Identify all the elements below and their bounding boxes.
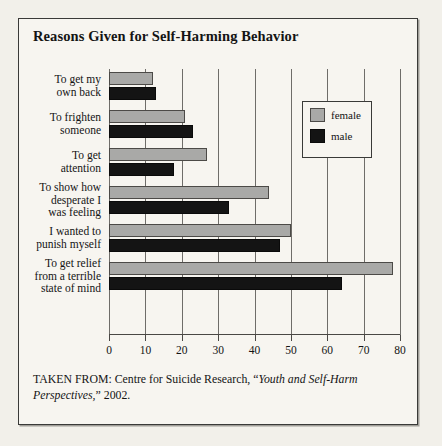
tick-label-0: 0 [106,344,112,356]
bar-female [109,186,269,199]
tick-70 [364,335,365,341]
source-caption: TAKEN FROM: Centre for Suicide Research,… [33,372,401,403]
category-label: To frightensomeone [0,111,101,136]
figure-frame: Reasons Given for Self-Harming Behavior … [18,18,418,425]
page-background: Reasons Given for Self-Harming Behavior … [0,0,442,446]
bar-male [109,239,280,252]
bar-group: I wanted topunish myself [109,224,400,252]
legend-entry-male: male [310,129,371,143]
bar-female [109,148,207,161]
tick-60 [327,335,328,341]
caption-suffix: ” 2002. [96,388,131,402]
category-label: I wanted topunish myself [0,225,101,250]
tick-label-50: 50 [285,344,297,356]
bar-male [109,201,229,214]
tick-label-80: 80 [394,344,406,356]
legend: female male [302,101,372,158]
plot-area: To get myown backTo frightensomeoneTo ge… [19,19,419,426]
caption-prefix: TAKEN FROM: Centre for Suicide Research,… [33,372,258,386]
bar-female [109,262,393,275]
bar-group: To get relieffrom a terriblestate of min… [109,262,400,290]
tick-50 [291,335,292,341]
category-label: To getattention [0,149,101,174]
bar-male [109,125,193,138]
category-label: To get myown back [0,73,101,98]
tick-40 [255,335,256,341]
legend-label-male: male [331,130,352,142]
tick-20 [182,335,183,341]
bar-female [109,224,291,237]
bar-group: To get myown back [109,72,400,100]
tick-label-40: 40 [249,344,261,356]
tick-label-20: 20 [176,344,188,356]
category-label: To get relieffrom a terriblestate of min… [0,257,101,295]
tick-80 [400,335,401,341]
bar-group: To show howdesperate Iwas feeling [109,186,400,214]
bar-female [109,110,185,123]
tick-label-30: 30 [212,344,224,356]
tick-label-10: 10 [140,344,152,356]
legend-entry-female: female [310,108,371,122]
tick-30 [218,335,219,341]
tick-label-70: 70 [358,344,370,356]
legend-label-female: female [331,109,361,121]
legend-swatch-female-icon [310,108,325,122]
bar-female [109,72,153,85]
gridline-80 [400,69,401,335]
tick-label-60: 60 [322,344,334,356]
tick-10 [145,335,146,341]
bar-male [109,87,156,100]
tick-0 [109,335,110,341]
legend-swatch-male-icon [310,129,325,143]
bar-male [109,277,342,290]
bar-male [109,163,174,176]
category-label: To show howdesperate Iwas feeling [0,181,101,219]
